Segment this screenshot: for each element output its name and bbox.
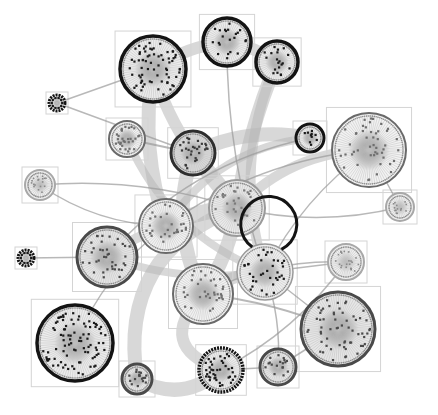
- graph-node[interactable]: [178, 71, 180, 73]
- graph-node[interactable]: [350, 268, 352, 270]
- graph-node[interactable]: [231, 367, 233, 369]
- graph-node[interactable]: [157, 88, 159, 90]
- graph-node[interactable]: [188, 138, 190, 140]
- graph-node[interactable]: [23, 252, 25, 254]
- graph-node[interactable]: [376, 173, 378, 175]
- graph-node[interactable]: [190, 153, 192, 155]
- graph-node[interactable]: [219, 385, 221, 387]
- graph-node[interactable]: [224, 194, 226, 196]
- graph-node[interactable]: [82, 261, 84, 263]
- graph-node[interactable]: [204, 148, 206, 150]
- graph-node[interactable]: [33, 178, 35, 180]
- graph-node[interactable]: [73, 332, 75, 334]
- graph-node[interactable]: [142, 59, 144, 61]
- graph-node[interactable]: [187, 149, 189, 151]
- graph-node[interactable]: [185, 148, 187, 150]
- graph-node[interactable]: [237, 32, 239, 34]
- graph-node[interactable]: [156, 74, 158, 76]
- cluster-G[interactable]: [296, 124, 324, 152]
- graph-node[interactable]: [364, 343, 366, 345]
- graph-node[interactable]: [338, 307, 340, 309]
- graph-node[interactable]: [387, 128, 389, 130]
- graph-node[interactable]: [272, 283, 274, 285]
- graph-node[interactable]: [358, 264, 360, 266]
- graph-node[interactable]: [273, 259, 275, 261]
- graph-node[interactable]: [277, 260, 279, 262]
- graph-node[interactable]: [148, 42, 150, 44]
- graph-node[interactable]: [281, 274, 283, 276]
- graph-node[interactable]: [161, 80, 163, 82]
- graph-node[interactable]: [405, 204, 407, 206]
- graph-node[interactable]: [272, 72, 274, 74]
- graph-node[interactable]: [389, 163, 391, 165]
- graph-node[interactable]: [346, 320, 348, 322]
- graph-node[interactable]: [227, 53, 229, 55]
- graph-node[interactable]: [138, 375, 140, 377]
- graph-node[interactable]: [221, 384, 223, 386]
- graph-node[interactable]: [340, 267, 342, 269]
- graph-node[interactable]: [60, 316, 62, 318]
- graph-node[interactable]: [287, 54, 289, 56]
- graph-node[interactable]: [102, 271, 104, 273]
- graph-node[interactable]: [404, 201, 406, 203]
- cluster-E[interactable]: [109, 121, 145, 157]
- graph-node[interactable]: [201, 143, 203, 145]
- graph-node[interactable]: [345, 348, 347, 350]
- graph-node[interactable]: [104, 334, 106, 336]
- graph-node[interactable]: [354, 270, 356, 272]
- graph-node[interactable]: [54, 329, 56, 331]
- graph-node[interactable]: [377, 130, 379, 132]
- cluster-M[interactable]: [77, 227, 137, 287]
- graph-node[interactable]: [105, 256, 107, 258]
- graph-node[interactable]: [222, 286, 224, 288]
- graph-node[interactable]: [182, 212, 184, 214]
- graph-node[interactable]: [93, 322, 95, 324]
- graph-node[interactable]: [322, 318, 324, 320]
- graph-node[interactable]: [62, 319, 64, 321]
- graph-node[interactable]: [168, 57, 170, 59]
- graph-node[interactable]: [396, 212, 398, 214]
- graph-node[interactable]: [340, 251, 342, 253]
- graph-node[interactable]: [283, 359, 285, 361]
- graph-node[interactable]: [188, 142, 190, 144]
- graph-node[interactable]: [54, 107, 56, 109]
- graph-node[interactable]: [200, 278, 202, 280]
- graph-node[interactable]: [320, 341, 322, 343]
- cluster-B[interactable]: [203, 18, 251, 66]
- graph-node[interactable]: [141, 67, 143, 69]
- graph-node[interactable]: [229, 51, 231, 53]
- graph-node[interactable]: [233, 208, 235, 210]
- graph-node[interactable]: [166, 81, 168, 83]
- graph-node[interactable]: [55, 348, 57, 350]
- graph-node[interactable]: [209, 376, 211, 378]
- graph-node[interactable]: [82, 333, 84, 335]
- graph-node[interactable]: [337, 327, 339, 329]
- graph-node[interactable]: [140, 89, 142, 91]
- graph-node[interactable]: [226, 57, 228, 59]
- graph-node[interactable]: [168, 61, 170, 63]
- graph-node[interactable]: [333, 313, 335, 315]
- graph-node[interactable]: [42, 181, 44, 183]
- graph-node[interactable]: [273, 46, 275, 48]
- graph-node[interactable]: [222, 288, 224, 290]
- graph-node[interactable]: [195, 157, 197, 159]
- graph-node[interactable]: [111, 261, 113, 263]
- graph-node[interactable]: [168, 76, 170, 78]
- graph-node[interactable]: [82, 373, 84, 375]
- graph-node[interactable]: [88, 320, 90, 322]
- graph-node[interactable]: [106, 248, 108, 250]
- graph-node[interactable]: [222, 362, 224, 364]
- graph-node[interactable]: [260, 259, 262, 261]
- graph-node[interactable]: [330, 348, 332, 350]
- graph-node[interactable]: [164, 204, 166, 206]
- graph-node[interactable]: [87, 351, 89, 353]
- graph-node[interactable]: [364, 119, 366, 121]
- graph-node[interactable]: [344, 302, 346, 304]
- graph-node[interactable]: [186, 294, 188, 296]
- graph-node[interactable]: [366, 332, 368, 334]
- graph-node[interactable]: [249, 196, 251, 198]
- graph-node[interactable]: [350, 260, 352, 262]
- graph-node[interactable]: [67, 334, 69, 336]
- graph-node[interactable]: [129, 245, 131, 247]
- graph-node[interactable]: [60, 105, 62, 107]
